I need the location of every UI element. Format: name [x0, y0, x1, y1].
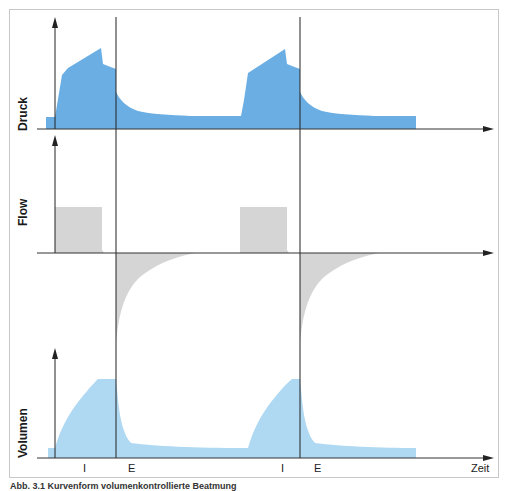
flow-curve — [55, 207, 379, 343]
figure-caption: Abb. 3.1 Kurvenform volumenkontrollierte… — [10, 481, 237, 491]
phase-label-inspiration-1: I — [83, 462, 86, 474]
phase-label-expiration-2: E — [314, 462, 321, 474]
pressure-axis-label: Druck — [16, 97, 30, 131]
phase-label-inspiration-2: I — [281, 462, 284, 474]
phase-label-expiration-1: E — [128, 462, 135, 474]
time-axis-label: Zeit — [471, 462, 489, 474]
pressure-curve — [46, 48, 416, 129]
volume-axis-label: Volumen — [16, 408, 30, 458]
volume-curve — [48, 379, 416, 458]
flow-axis-label: Flow — [16, 199, 30, 226]
